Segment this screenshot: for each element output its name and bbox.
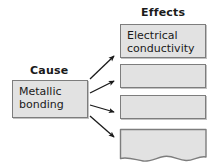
effect-box-blank-2 [120,95,206,119]
arrow-to-effect-4 [90,116,114,137]
effects-heading: Effects [141,6,185,19]
effect-box-blank-3-torn [119,128,208,165]
cause-box: Metallic bonding [12,80,88,118]
cause-box-label: Metallic bonding [19,85,84,111]
arrow-to-effect-2 [90,81,114,93]
cause-heading: Cause [30,64,68,77]
cause-effect-diagram: Cause Effects Metallic bonding Electrica… [0,0,213,165]
effect-box-label: Electrical conductivity [127,29,202,55]
effect-box-electrical-conductivity: Electrical conductivity [120,24,206,58]
torn-box-shape [121,130,207,162]
arrow-to-effect-1 [90,56,114,79]
effect-box-blank-1 [120,64,206,88]
arrow-to-effect-3 [90,105,114,112]
